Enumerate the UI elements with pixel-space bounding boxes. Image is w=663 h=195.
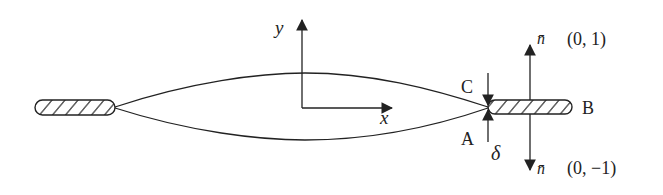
right-hatched-slit — [488, 100, 572, 114]
crack-diagram: y x n̄ (0, 1) n̄ (0, −1) δ C A B — [0, 0, 663, 195]
y-axis-label: y — [273, 17, 284, 38]
gap-delta-label: δ — [491, 142, 501, 164]
normal-down-vector: (0, −1) — [567, 158, 616, 179]
point-label-b: B — [582, 98, 594, 118]
coordinate-axes: y x — [273, 17, 392, 128]
crack-lower-face — [115, 108, 488, 140]
normal-down-symbol: n̄ — [537, 160, 545, 177]
point-label-a: A — [461, 129, 474, 149]
x-axis-label: x — [379, 107, 389, 128]
normal-up-symbol: n̄ — [537, 30, 545, 47]
point-label-c: C — [461, 77, 473, 97]
normal-up-vector: (0, 1) — [567, 29, 606, 50]
left-hatched-slit — [35, 100, 115, 115]
gap-delta-arrows: δ — [488, 73, 501, 164]
